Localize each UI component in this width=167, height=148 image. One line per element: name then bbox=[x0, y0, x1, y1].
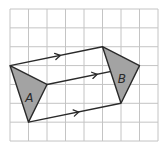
translation-vector bbox=[10, 47, 103, 66]
triangle-label: B bbox=[118, 72, 126, 86]
triangle-label: A bbox=[24, 91, 33, 105]
translation-vector bbox=[29, 103, 122, 122]
translation-diagram: AB bbox=[0, 0, 167, 148]
